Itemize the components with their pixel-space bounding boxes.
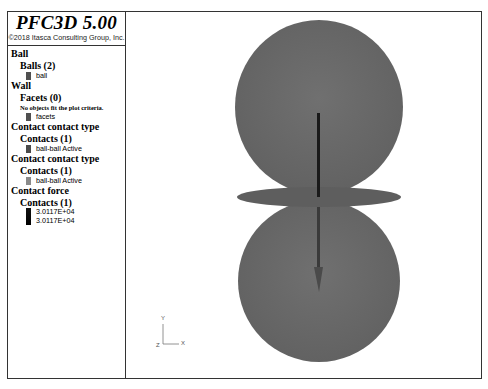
3d-viewport[interactable]: Y X Z xyxy=(126,12,481,378)
legend-force-range: 3.0117E+04 3.0117E+04 xyxy=(8,208,125,225)
color-scale-icon xyxy=(26,208,31,225)
force-min: 3.0117E+04 xyxy=(36,217,74,226)
legend-heading-wall: Wall xyxy=(8,80,125,92)
legend-item-ball: ball xyxy=(8,71,125,80)
force-arrow-shaft-upper xyxy=(317,113,320,197)
legend-group-contacts: Contacts (1) xyxy=(8,165,125,176)
plot-frame: PFC3D 5.00 ©2018 Itasca Consulting Group… xyxy=(7,11,482,379)
app-title: PFC3D 5.00 xyxy=(8,13,125,33)
scene-canvas xyxy=(126,12,481,378)
legend-item-facets: facets xyxy=(8,112,125,121)
legend-heading-ball: Ball xyxy=(8,48,125,60)
legend-heading-contact-force: Contact force xyxy=(8,185,125,197)
color-swatch-icon xyxy=(26,145,31,153)
color-swatch-icon xyxy=(26,177,31,185)
legend-group-facets: Facets (0) xyxy=(8,92,125,103)
legend-group-balls: Balls (2) xyxy=(8,60,125,71)
legend-item-contact: ball-ball Active xyxy=(8,144,125,153)
force-arrow-shaft-lower xyxy=(317,207,320,267)
color-swatch-icon xyxy=(26,113,31,121)
legend-heading-contact-type: Contact contact type xyxy=(8,153,125,165)
legend-item-contact: ball-ball Active xyxy=(8,176,125,185)
legend-group-contacts: Contacts (1) xyxy=(8,133,125,144)
legend-heading-contact-type: Contact contact type xyxy=(8,121,125,133)
axis-z-label: Z xyxy=(156,342,160,348)
axis-y-label: Y xyxy=(161,315,165,321)
axis-x-label: X xyxy=(181,340,185,346)
legend-note: No objects fit the plot criteria. xyxy=(8,103,125,112)
color-swatch-icon xyxy=(26,72,31,80)
copyright: ©2018 Itasca Consulting Group, Inc. xyxy=(8,33,125,43)
legend-panel: PFC3D 5.00 ©2018 Itasca Consulting Group… xyxy=(8,12,126,378)
legend-divider xyxy=(8,45,125,46)
